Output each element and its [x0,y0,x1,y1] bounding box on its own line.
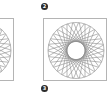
right-rosette-graphic [44,19,107,81]
left-rosette-graphic [0,19,14,81]
step-badge-2: 2 [41,3,48,10]
left-rosette-panel [0,18,14,81]
step-badge-3: 3 [41,85,48,92]
right-rosette-panel [43,18,107,81]
